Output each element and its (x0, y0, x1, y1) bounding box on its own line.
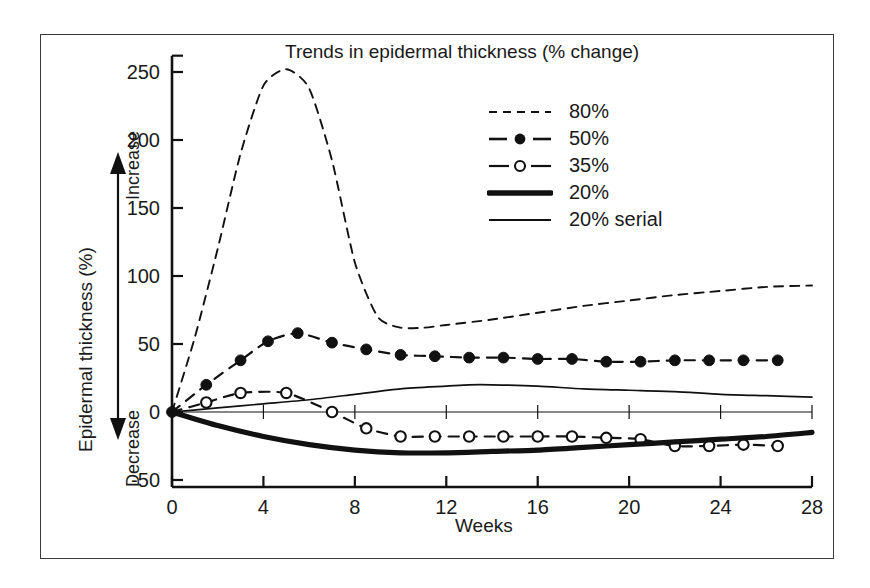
legend-key-dashed-open-circle (487, 155, 553, 177)
legend-key-dashed (487, 101, 553, 123)
figure-root: Trends in epidermal thickness (% change)… (0, 0, 870, 588)
legend-open-circle-marker (515, 161, 525, 171)
data-point-marker (201, 379, 212, 390)
data-point-marker (395, 431, 405, 441)
data-point-marker (635, 356, 646, 367)
data-point-marker (327, 407, 337, 417)
x-tick-label: 16 (514, 497, 562, 517)
series-line (172, 385, 812, 412)
legend-item: 20% (487, 179, 787, 206)
x-tick-label: 12 (422, 497, 470, 517)
data-point-marker (281, 388, 291, 398)
data-point-marker (601, 433, 611, 443)
data-point-marker (429, 351, 440, 362)
x-tick-label: 0 (148, 497, 196, 517)
data-point-marker (704, 355, 715, 366)
data-point-marker (464, 352, 475, 363)
series-20-serial (172, 385, 812, 412)
legend-key-dashed-filled-circle (487, 128, 553, 150)
legend-item: 20% serial (487, 206, 787, 233)
x-tick-label: 20 (605, 497, 653, 517)
y-tick-label: 50 (100, 334, 160, 354)
y-tick-label: 100 (100, 266, 160, 286)
data-point-marker (738, 355, 749, 366)
data-point-marker (263, 336, 274, 347)
legend-item-label: 50% (569, 127, 609, 150)
legend-item: 35% (487, 152, 787, 179)
legend-item-label: 20% (569, 181, 609, 204)
data-point-marker (292, 328, 303, 339)
y-tick-label: 150 (100, 198, 160, 218)
x-tick-label: 24 (697, 497, 745, 517)
y-tick-label: -50 (100, 470, 160, 490)
data-point-marker (772, 355, 783, 366)
series-20- (172, 412, 812, 453)
data-point-marker (669, 355, 680, 366)
data-point-marker (327, 337, 338, 348)
data-point-marker (533, 431, 543, 441)
legend-item-label: 80% (569, 100, 609, 123)
data-point-marker (567, 431, 577, 441)
data-point-marker (361, 344, 372, 355)
data-point-marker (498, 431, 508, 441)
x-tick-label: 28 (788, 497, 836, 517)
legend-key-solid-thick (487, 182, 553, 204)
data-point-marker (235, 355, 246, 366)
legend-key-solid-thin (487, 209, 553, 231)
data-point-marker (532, 354, 543, 365)
x-tick-label: 4 (239, 497, 287, 517)
data-point-marker (235, 388, 245, 398)
x-tick-label: 8 (331, 497, 379, 517)
legend-item-label: 35% (569, 154, 609, 177)
y-tick-label: 200 (100, 130, 160, 150)
data-point-marker (430, 431, 440, 441)
data-point-marker (361, 423, 371, 433)
legend-item-label: 20% serial (569, 208, 662, 231)
series-line (172, 333, 778, 412)
y-tick-label: 250 (100, 62, 160, 82)
data-point-marker (738, 439, 748, 449)
data-point-marker (464, 431, 474, 441)
legend-item: 50% (487, 125, 787, 152)
chart-title: Trends in epidermal thickness (% change) (285, 42, 639, 61)
data-point-marker (567, 354, 578, 365)
legend-item: 80% (487, 98, 787, 125)
y-axis-title: Epidermal thickness (%) (76, 247, 95, 452)
data-point-marker (601, 356, 612, 367)
data-point-marker (773, 441, 783, 451)
data-point-marker (395, 349, 406, 360)
series-line (172, 412, 812, 453)
data-point-marker (498, 352, 509, 363)
data-point-marker (201, 397, 211, 407)
y-tick-label: 0 (100, 402, 160, 422)
chart-legend: 80%50%35%20%20% serial (487, 98, 787, 233)
legend-filled-circle-marker (515, 133, 526, 144)
x-axis-title: Weeks (455, 516, 513, 535)
